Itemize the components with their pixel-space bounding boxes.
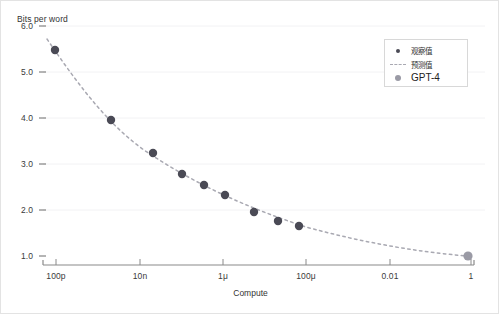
x-tick-label-100u: 100μ (283, 271, 329, 281)
gpt4-data-point (463, 251, 472, 260)
legend-item-gpt4[interactable]: GPT-4 (385, 70, 469, 85)
data-point (250, 208, 258, 216)
x-tick-label-100p: 100p (33, 271, 79, 281)
legend-dashed-line-icon (385, 64, 411, 65)
x-axis-ticks (56, 259, 471, 265)
legend-item-observed[interactable]: 观察值 (385, 43, 469, 58)
data-point (149, 149, 157, 157)
chart-legend: 观察值 预测值 GPT-4 (384, 39, 468, 87)
legend-dot-icon (385, 49, 411, 53)
plot-area: Bits per word 6.0 5.0 4.0 3.0 2.0 1.0 10… (1, 1, 499, 314)
data-point (200, 181, 208, 189)
observed-data-points (51, 46, 303, 230)
y-tick-label-4: 4.0 (3, 113, 33, 123)
x-tick-label-0.01: 0.01 (367, 271, 413, 281)
data-point (221, 191, 229, 199)
legend-label-observed: 观察值 (411, 45, 432, 56)
x-tick-label-1: 1 (448, 271, 494, 281)
y-tick-label-6: 6.0 (3, 21, 33, 31)
data-point (51, 46, 59, 54)
legend-label-predicted: 预测值 (411, 59, 432, 70)
x-axis-line (43, 260, 474, 265)
y-tick-label-5: 5.0 (3, 67, 33, 77)
x-axis-title: Compute (1, 288, 499, 298)
data-point (107, 116, 115, 124)
data-point (295, 222, 303, 230)
legend-label-gpt4: GPT-4 (411, 72, 440, 83)
x-tick-label-10n: 10n (117, 271, 163, 281)
chart-figure: Bits per word 6.0 5.0 4.0 3.0 2.0 1.0 10… (0, 0, 499, 314)
data-point (178, 170, 186, 178)
x-tick-label-1u: 1μ (200, 271, 246, 281)
legend-large-dot-icon (385, 75, 411, 81)
data-point (274, 217, 282, 225)
y-tick-label-1: 1.0 (3, 251, 33, 261)
y-tick-label-2: 2.0 (3, 205, 33, 215)
y-axis-ticks (39, 26, 46, 256)
y-tick-label-3: 3.0 (3, 159, 33, 169)
